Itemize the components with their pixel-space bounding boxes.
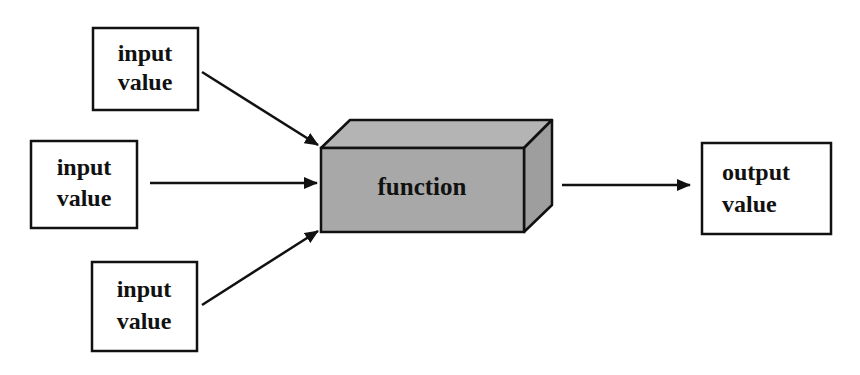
- function-box-top-face: [321, 120, 552, 148]
- input-3-line1: input: [117, 276, 172, 302]
- function-label: function: [378, 173, 467, 200]
- input-1-line2: value: [118, 69, 173, 95]
- input-3-line2: value: [117, 308, 172, 334]
- input-value-box-3: input value: [92, 262, 197, 351]
- output-value-box: output value: [702, 143, 831, 234]
- output-line2: value: [722, 191, 777, 217]
- input-2-line2: value: [57, 185, 112, 211]
- arrow-input-1-to-function: [202, 72, 318, 145]
- function-diagram: input value input value input value func…: [0, 0, 860, 375]
- input-1-line1: input: [118, 40, 173, 66]
- input-value-box-2: input value: [31, 141, 137, 228]
- output-line1: output: [722, 159, 790, 185]
- arrow-input-3-to-function: [202, 231, 318, 305]
- input-value-box-1: input value: [93, 28, 198, 110]
- function-box: function: [321, 120, 552, 232]
- input-2-line1: input: [57, 154, 112, 180]
